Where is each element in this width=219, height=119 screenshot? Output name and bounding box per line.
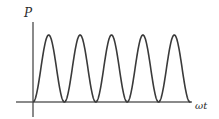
- y-axis-label: P: [24, 7, 32, 19]
- power-waveform-figure: P ωt: [0, 0, 219, 119]
- plot-canvas: [0, 0, 219, 119]
- x-axis-label: ωt: [195, 101, 207, 111]
- power-curve: [33, 35, 190, 102]
